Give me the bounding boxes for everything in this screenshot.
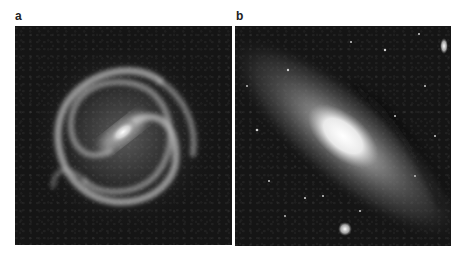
satellite-galaxy <box>440 38 448 54</box>
satellite-galaxy <box>338 222 352 236</box>
inclined-galaxy-graphic <box>235 26 451 246</box>
panel-label-a: a <box>15 10 22 22</box>
spiral-galaxy-graphic <box>15 26 232 245</box>
galaxy-image-b <box>235 26 451 246</box>
panel-label-b: b <box>236 10 243 22</box>
galaxy-image-a <box>15 26 232 245</box>
